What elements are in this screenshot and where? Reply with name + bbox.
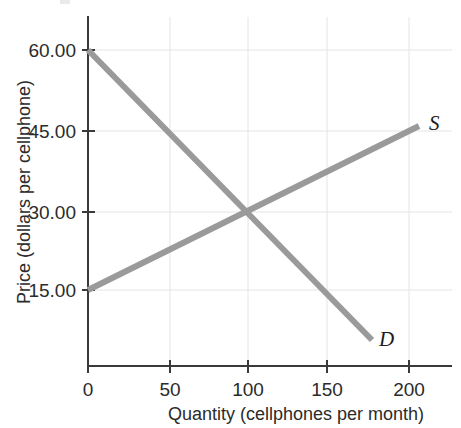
horizontal-gridlines [88,50,452,290]
axes [88,16,452,366]
supply-demand-chart: 60.00 45.00 30.00 15.00 0 50 100 150 200… [0,0,461,428]
demand-curve-label: D [378,327,394,351]
x-tick-label-0: 0 [83,379,94,400]
x-tick-label-100: 100 [232,379,264,400]
supply-curve-label: S [429,111,440,135]
y-tick-label-45: 45.00 [28,121,76,142]
y-tick-label-15: 15.00 [28,280,76,301]
chart-canvas: 60.00 45.00 30.00 15.00 0 50 100 150 200… [0,0,461,428]
demand-curve [88,50,372,340]
x-tick-label-200: 200 [393,379,425,400]
x-tick-labels: 0 50 100 150 200 [83,379,425,400]
y-tick-label-60: 60.00 [28,40,76,61]
y-tick-label-30: 30.00 [28,202,76,223]
y-axis-title: Price (dollars per cellphone) [14,80,34,304]
y-tick-labels: 60.00 45.00 30.00 15.00 [28,40,76,301]
x-tick-label-50: 50 [159,379,180,400]
x-axis-title: Quantity (cellphones per month) [168,404,424,424]
scan-artifacts [60,0,70,4]
x-tick-label-150: 150 [311,379,343,400]
supply-curve [88,126,419,290]
